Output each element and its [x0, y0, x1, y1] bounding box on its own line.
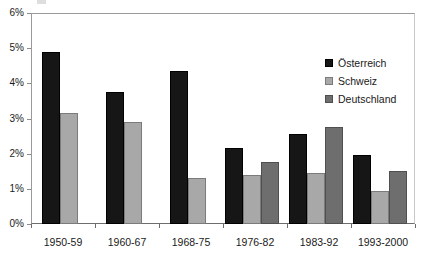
bar-ch-3 — [243, 175, 261, 224]
legend-swatch-icon — [325, 95, 333, 103]
x-axis-tick-label: 1983-92 — [300, 236, 339, 248]
bar-de-5 — [389, 171, 407, 224]
legend-item-label: Österreich — [338, 57, 386, 69]
x-axis-tick-mark — [95, 224, 96, 228]
x-axis-tick-label: 1968-75 — [172, 236, 211, 248]
bar-de-4 — [325, 127, 343, 224]
bar-ch-2 — [188, 178, 206, 224]
bar-ch-0 — [60, 113, 78, 224]
x-axis-tick-label: 1950-59 — [44, 236, 83, 248]
legend: ÖsterreichSchweizDeutschland — [325, 55, 420, 109]
bar-chart: 6%5%4%3%2%1%0% 1950-591960-671968-751976… — [0, 0, 425, 263]
x-axis-tick-label: 1976-82 — [236, 236, 275, 248]
bar-ch-4 — [307, 173, 325, 224]
x-axis-tick-label: 1960-67 — [108, 236, 147, 248]
bar-ch-1 — [124, 122, 142, 224]
x-axis-tick-mark — [159, 224, 160, 228]
x-axis-tick-mark — [287, 224, 288, 228]
bars-layer: 1950-591960-671968-751976-821983-921993-… — [0, 0, 425, 263]
bar-at-2 — [170, 71, 188, 224]
legend-item: Deutschland — [325, 91, 420, 107]
x-axis-tick-label: 1993-2000 — [358, 236, 408, 248]
bar-at-0 — [42, 52, 60, 224]
legend-item-label: Deutschland — [338, 93, 396, 105]
bar-de-3 — [261, 162, 279, 224]
legend-item: Schweiz — [325, 73, 420, 89]
bar-at-1 — [106, 92, 124, 224]
bar-at-4 — [289, 134, 307, 224]
bar-ch-5 — [371, 191, 389, 224]
x-axis-tick-mark — [351, 224, 352, 228]
bar-at-5 — [353, 155, 371, 224]
x-axis-tick-mark — [415, 224, 416, 228]
x-axis-tick-mark — [223, 224, 224, 228]
legend-item-label: Schweiz — [338, 75, 377, 87]
legend-swatch-icon — [325, 77, 333, 85]
x-axis-tick-mark — [31, 224, 32, 228]
legend-swatch-icon — [325, 59, 333, 67]
legend-item: Österreich — [325, 55, 420, 71]
bar-at-3 — [225, 148, 243, 224]
